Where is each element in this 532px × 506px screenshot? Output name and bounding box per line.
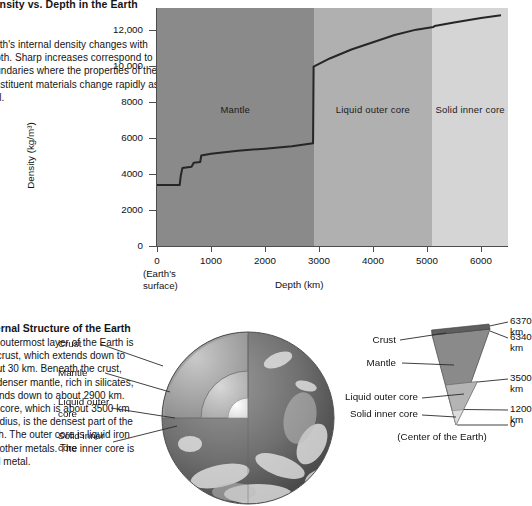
- wedge-radius-6340: 6340 km: [510, 331, 532, 353]
- wedge-center-note: (Center of the Earth): [366, 431, 518, 442]
- y-tick-label-10000: 10,000: [0, 60, 143, 71]
- density-series-line: [157, 15, 501, 185]
- y-tick-label-12000: 12,000: [0, 24, 143, 35]
- y-tick-label-8000: 8000: [0, 96, 143, 107]
- x-tick-label-1000: 1000: [181, 255, 241, 266]
- y-tick-label-2000: 2000: [0, 204, 143, 215]
- x-tick-6000: [481, 246, 482, 252]
- origin-annotation: (Earth's surface): [143, 268, 213, 291]
- x-tick-label-2000: 2000: [235, 255, 295, 266]
- x-tick-label-5000: 5000: [397, 255, 457, 266]
- y-tick-6000: [149, 138, 157, 139]
- y-tick-4000: [149, 174, 157, 175]
- earth-callout-labels: Crust Mantle Liquid outer core Solid inn…: [58, 332, 178, 472]
- x-tick-label-3000: 3000: [289, 255, 349, 266]
- y-tick-12000: [149, 30, 157, 31]
- wedge-radius-3500: 3500 km: [510, 372, 532, 394]
- density-depth-chart: Mantle Liquid outer core Solid inner cor…: [0, 0, 518, 300]
- x-tick-2000: [265, 246, 266, 252]
- earth-callout-crust: Crust: [58, 338, 81, 350]
- earth-callout-solid-inner-core: Solid inner core: [58, 430, 110, 454]
- earth-callout-mantle: Mantle: [58, 367, 87, 379]
- x-axis-label: Depth (km): [275, 279, 323, 290]
- chart-plot-area: Mantle Liquid outer core Solid inner cor…: [157, 8, 508, 246]
- y-tick-2000: [149, 210, 157, 211]
- x-tick-0: [157, 246, 158, 252]
- density-curve: [157, 8, 508, 246]
- wedge-label-mantle: Mantle: [300, 357, 396, 368]
- earth-callout-liquid-outer-core: Liquid outer core: [58, 396, 110, 420]
- x-tick-label-4000: 4000: [343, 255, 403, 266]
- x-axis-line: [156, 246, 508, 247]
- y-axis-label: Density (kg/m³): [25, 96, 36, 216]
- x-tick-5000: [427, 246, 428, 252]
- y-tick-8000: [149, 102, 157, 103]
- earth-wedge-diagram: Crust Mantle Liquid outer core Solid inn…: [340, 318, 518, 458]
- wedge-radius-0: 0: [510, 418, 515, 429]
- wedge-label-solid-inner-core: Solid inner core: [318, 408, 418, 419]
- y-tick-label-4000: 4000: [0, 168, 143, 179]
- wedge-label-liquid-outer-core: Liquid outer core: [318, 391, 418, 402]
- x-tick-4000: [373, 246, 374, 252]
- y-tick-0: [149, 246, 157, 247]
- x-tick-1000: [211, 246, 212, 252]
- x-tick-label-6000: 6000: [451, 255, 511, 266]
- x-tick-3000: [319, 246, 320, 252]
- y-tick-10000: [149, 66, 157, 67]
- y-tick-label-0: 0: [0, 240, 143, 251]
- wedge-label-crust: Crust: [300, 334, 396, 345]
- y-tick-label-6000: 6000: [0, 132, 143, 143]
- x-tick-label-0: 0: [127, 255, 187, 266]
